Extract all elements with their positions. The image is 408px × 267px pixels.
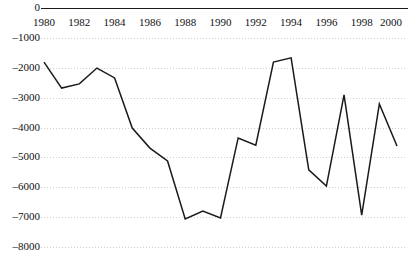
x-tick-label: 1994 xyxy=(280,17,302,28)
x-tick-label: 1982 xyxy=(68,17,90,28)
y-tick-label: –7000 xyxy=(2,211,40,222)
y-tick: –5000 xyxy=(0,151,40,162)
y-tick-label: –2000 xyxy=(2,62,40,73)
y-tick: –3000 xyxy=(0,92,40,103)
y-tick: –6000 xyxy=(0,181,40,192)
chart-canvas xyxy=(0,0,408,267)
x-tick-label: 1980 xyxy=(33,17,55,28)
x-tick-label: 1998 xyxy=(351,17,373,28)
x-tick-label: 1996 xyxy=(315,17,337,28)
y-tick: –8000 xyxy=(0,241,40,252)
y-tick-label: –4000 xyxy=(2,122,40,133)
data-series xyxy=(44,58,397,219)
x-tick-label: 1984 xyxy=(104,17,126,28)
y-tick-label: –1000 xyxy=(2,32,40,43)
y-tick-label: 0 xyxy=(2,2,40,13)
x-tick-label: 1992 xyxy=(245,17,267,28)
x-tick-label: 1988 xyxy=(174,17,196,28)
y-tick: –2000 xyxy=(0,62,40,73)
y-tick-label: –8000 xyxy=(2,241,40,252)
x-tick-label: 1986 xyxy=(139,17,161,28)
x-tick-label: 1990 xyxy=(210,17,232,28)
y-tick: –1000 xyxy=(0,32,40,43)
line-chart: 0–1000–2000–3000–4000–5000–6000–7000–800… xyxy=(0,0,408,267)
y-tick: 0 xyxy=(0,2,40,13)
y-tick: –4000 xyxy=(0,122,40,133)
x-tick-label: 2000 xyxy=(380,17,402,28)
y-tick: –7000 xyxy=(0,211,40,222)
y-tick-label: –3000 xyxy=(2,92,40,103)
y-tick-label: –5000 xyxy=(2,151,40,162)
y-tick-label: –6000 xyxy=(2,181,40,192)
series-line-0 xyxy=(44,58,397,219)
